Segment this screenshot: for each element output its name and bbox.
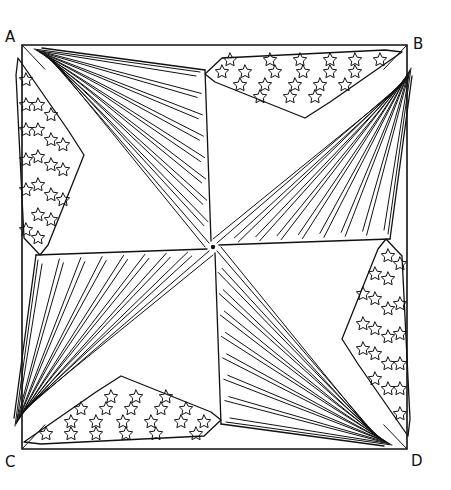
corner-label-c: C <box>5 455 15 470</box>
corner-label-a: A <box>5 30 15 45</box>
star-field-top <box>205 50 402 118</box>
center-dot <box>211 245 215 249</box>
corner-label-b: B <box>413 37 423 52</box>
star-field-left <box>16 58 84 255</box>
center-point <box>211 245 215 249</box>
star-field-right <box>342 239 410 436</box>
flag-a <box>34 48 211 247</box>
pinwheel-flag-drawing <box>0 0 451 490</box>
flag-c <box>14 249 213 426</box>
star-field-bottom <box>24 376 221 444</box>
corner-label-d: D <box>411 454 423 469</box>
